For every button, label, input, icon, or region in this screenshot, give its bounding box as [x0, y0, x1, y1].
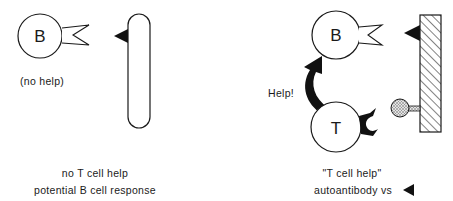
b-cell-left: B [18, 14, 62, 58]
left-caption-line1: no T cell help [62, 167, 128, 179]
b-cell-label: B [34, 27, 45, 46]
t-cell-receptor-icon [359, 108, 378, 136]
antigen-triangle-inline-icon [403, 184, 414, 196]
help-label: Help! [268, 87, 294, 99]
b-cell-label: B [330, 26, 341, 45]
antigen-triangle-icon [404, 25, 420, 41]
left-panel: B (no help) no T cell help potential B c… [18, 14, 156, 196]
b-cell-right: B [312, 11, 360, 59]
t-cell-label: T [331, 119, 341, 138]
right-caption-line1: "T cell help" [322, 167, 381, 179]
self-tissue-pill-icon [128, 14, 150, 128]
left-caption-line2: potential B cell response [34, 184, 156, 196]
b-cell-receptor-icon [359, 25, 382, 45]
t-cell: T [311, 102, 361, 152]
b-cell-receptor-icon [62, 25, 89, 45]
right-panel: B Help! T "T cell help" autoantibody vs [268, 11, 441, 196]
t-cell-epitope-icon [391, 99, 420, 117]
right-caption-line2: autoantibody vs [314, 184, 392, 196]
self-tissue-hatched-icon [420, 15, 441, 132]
diagram-canvas: B (no help) no T cell help potential B c… [0, 0, 453, 201]
no-help-note: (no help) [20, 75, 64, 87]
